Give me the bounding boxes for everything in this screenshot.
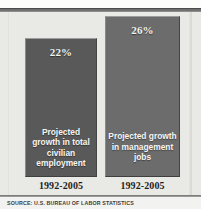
- source-note: SOURCE: U.S. BUREAU OF LABOR STATISTICS: [7, 198, 134, 208]
- bar-chart-figure: 22% Projected growth in total civilian e…: [0, 0, 201, 209]
- panel-left-edge: [8, 12, 10, 195]
- top-margin: [0, 0, 201, 8]
- bar-value-label-right: 26%: [106, 24, 179, 36]
- period-label-left: 1992-2005: [25, 179, 97, 192]
- bar-caption-left: Projected growth in total civilian emplo…: [28, 127, 94, 168]
- period-label-right: 1992-2005: [105, 179, 180, 192]
- bar-total-civilian-employment: 22% Projected growth in total civilian e…: [25, 38, 97, 177]
- bar-value-label-left: 22%: [26, 46, 96, 58]
- bar-caption-right: Projected growth in management jobs: [108, 131, 177, 162]
- bar-management-jobs: 26% Projected growth in management jobs: [105, 16, 180, 177]
- panel-right-edge: [189, 12, 192, 195]
